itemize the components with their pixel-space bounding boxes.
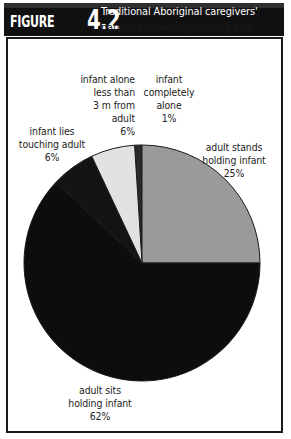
label-infant-completely-alone: infant completely alone 1%	[140, 73, 198, 125]
label-adult-stands-holding-infant-line-2: holding infant	[190, 154, 278, 167]
label-infant-completely-alone-value: 1%	[140, 112, 198, 125]
label-adult-stands-holding-infant: adult stands holding infant 25%	[190, 141, 278, 180]
label-infant-lies-touching-adult-line-2: touching adult	[12, 138, 92, 151]
label-adult-stands-holding-infant-value: 25%	[190, 167, 278, 180]
label-infant-lies-touching-adult-line-1: infant lies	[12, 125, 92, 138]
figure-container: FIGURE 4.2 Traditional Aboriginal caregi…	[0, 0, 291, 439]
label-adult-stands-holding-infant-line-1: adult stands	[190, 141, 278, 154]
label-infant-alone-3m-line-4: adult	[63, 112, 135, 125]
label-infant-alone-3m-line-1: infant alone	[63, 73, 135, 86]
label-infant-lies-touching-adult: infant lies touching adult 6%	[12, 125, 92, 164]
label-infant-lies-touching-adult-value: 6%	[12, 151, 92, 164]
label-adult-sits-holding-infant: adult sits holding infant 62%	[50, 384, 150, 423]
label-adult-sits-holding-infant-line-2: holding infant	[50, 397, 150, 410]
label-adult-sits-holding-infant-value: 62%	[50, 410, 150, 423]
pie-slice-group	[24, 145, 260, 381]
label-infant-completely-alone-line-3: alone	[140, 99, 198, 112]
label-infant-alone-3m-line-3: 3 m from	[63, 99, 135, 112]
label-adult-sits-holding-infant-line-1: adult sits	[50, 384, 150, 397]
label-infant-alone-3m-line-2: less than	[63, 86, 135, 99]
label-infant-completely-alone-line-1: infant	[140, 73, 198, 86]
label-infant-completely-alone-line-2: completely	[140, 86, 198, 99]
pie-chart	[0, 0, 291, 439]
